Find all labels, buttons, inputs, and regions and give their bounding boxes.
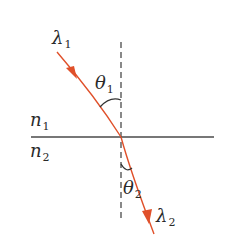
- theta2-subscript: 2: [135, 188, 142, 201]
- n1-label: n1: [30, 111, 50, 129]
- n2-label: n2: [30, 142, 50, 160]
- n1-subscript: 1: [43, 120, 50, 133]
- n2-subscript: 2: [43, 151, 50, 164]
- lambda2-label: λ2: [156, 207, 175, 225]
- theta1-symbol: θ: [95, 72, 106, 93]
- theta1-arc: [100, 99, 121, 107]
- lambda1-symbol: λ: [52, 27, 63, 48]
- lambda1-subscript: 1: [64, 38, 71, 51]
- incident-arrow-icon: [66, 66, 77, 79]
- n2-symbol: n: [30, 140, 42, 161]
- lambda1-label: λ1: [52, 29, 71, 47]
- theta1-label: θ1: [95, 74, 114, 92]
- lambda2-subscript: 2: [168, 216, 175, 229]
- theta2-label: θ2: [123, 179, 142, 197]
- lambda2-symbol: λ: [156, 205, 167, 226]
- refracted-arrow-icon: [142, 209, 152, 224]
- refraction-diagram: λ1 θ1 n1 n2 θ2 λ2: [0, 0, 228, 249]
- n1-symbol: n: [30, 109, 42, 130]
- theta2-symbol: θ: [123, 177, 134, 198]
- theta1-subscript: 1: [107, 83, 114, 96]
